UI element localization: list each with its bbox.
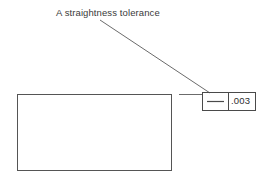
leader-line bbox=[100, 20, 210, 93]
drawing-geometry bbox=[0, 0, 273, 183]
rectangular-part-outline bbox=[18, 95, 172, 171]
technical-drawing-canvas: A straightness tolerance .003 bbox=[0, 0, 273, 183]
annotation-label: A straightness tolerance bbox=[56, 7, 160, 19]
tolerance-value-label: .003 bbox=[231, 95, 250, 107]
